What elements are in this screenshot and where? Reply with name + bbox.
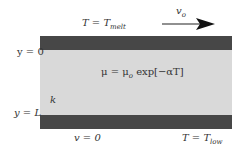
conductivity-label: k [50, 95, 56, 105]
top-plate [40, 36, 232, 50]
bottom-temperature-label: T = Tlow [182, 133, 223, 146]
y-l-label: y = L [14, 108, 41, 118]
viscosity-equation: μ = μo exp[−αT] [101, 67, 184, 80]
arrow-right-icon [162, 17, 216, 31]
bottom-velocity-label: v = 0 [74, 133, 101, 143]
top-temperature-label: T = Tmelt [82, 18, 126, 31]
fluid-layer [40, 50, 232, 115]
bottom-plate [40, 115, 232, 129]
y-zero-label: y = 0 [17, 47, 44, 57]
